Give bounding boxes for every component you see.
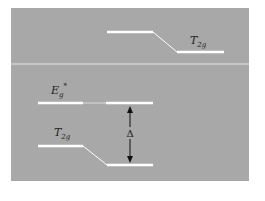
lower-t2g-level: [38, 146, 153, 165]
energy-diagram: T2g Eg* T2g Δ: [0, 0, 265, 201]
upper-t2g-level: [107, 32, 224, 52]
eg-star-label: Eg*: [50, 82, 68, 99]
arrow-up-head-icon: [127, 106, 133, 113]
upper-t2g-label: T2g: [190, 34, 207, 49]
lower-t2g-label: T2g: [54, 126, 71, 141]
arrow-down-head-icon: [127, 156, 133, 163]
delta-label: Δ: [126, 128, 133, 139]
